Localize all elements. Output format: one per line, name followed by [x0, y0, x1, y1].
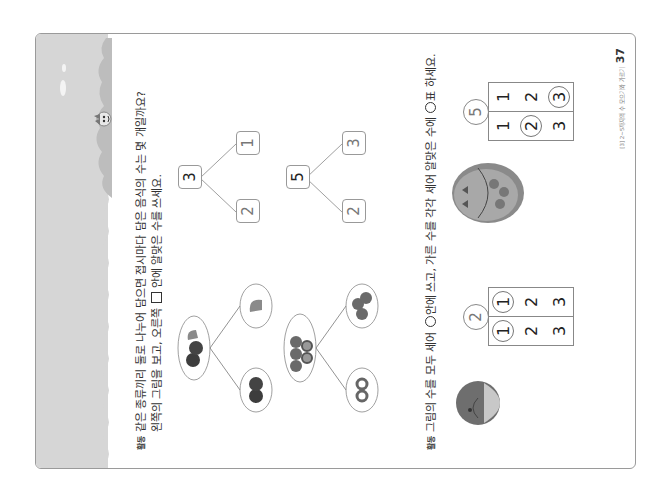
total-answer-circle[interactable]: 2 [463, 304, 489, 330]
choice-option[interactable]: 2 [520, 291, 542, 313]
bond-part-answer[interactable]: 3 [342, 131, 366, 155]
choice-option[interactable]: 1 [492, 115, 514, 137]
bond-whole: 5 [286, 165, 310, 189]
split-choice-table-2: 1 2 3 1 2 3 [488, 82, 574, 141]
worksheet-page: 활동같은 종류끼리 둘로 나누어 담으면 접시마다 담은 음식의 수는 몇 개일… [35, 33, 636, 469]
choice-column: 1 2 3 [489, 83, 573, 112]
activity-marker: 활동 [134, 436, 149, 450]
choice-option[interactable]: 1 [492, 86, 514, 108]
choice-option[interactable]: 3 [548, 86, 570, 108]
question2-text: 활동그림의 수를 모두 세어 안에 쓰고, 가른 수를 각각 세어 알맞은 수에… [424, 54, 439, 450]
total-answer-circle[interactable]: 5 [463, 99, 489, 125]
question1-line1: 활동같은 종류끼리 둘로 나누어 담으면 접시마다 담은 음식의 수는 몇 개일… [134, 91, 149, 450]
jellyfish-picture [454, 378, 514, 428]
bond-part-answer[interactable]: 1 [236, 131, 260, 155]
question1-line2: 왼쪽의 그림을 보고, 오른쪽 안에 알맞은 수를 쓰세요. [150, 174, 165, 432]
circle-symbol [425, 316, 436, 327]
choice-option[interactable]: 3 [548, 115, 570, 137]
bond-whole: 3 [178, 165, 202, 189]
choice-option[interactable]: 2 [520, 320, 542, 342]
choice-option[interactable]: 3 [548, 320, 570, 342]
bond-part-answer[interactable]: 2 [342, 199, 366, 223]
choice-option[interactable]: 2 [520, 115, 542, 137]
apple-persimmon-split-diagram [176, 278, 276, 418]
choice-column: 1 2 3 [489, 288, 573, 317]
answer-box-symbol [151, 293, 162, 304]
activity-marker: 활동 [424, 436, 439, 450]
circle-symbol [425, 102, 436, 113]
berry-donut-split-diagram [282, 278, 382, 418]
choice-option[interactable]: 2 [520, 86, 542, 108]
page-footer: [3] 2~5까지의 수 모으기와 가르기37 [614, 48, 627, 149]
plate-picture [448, 158, 528, 228]
choice-option[interactable]: 3 [548, 291, 570, 313]
page-number: 37 [614, 48, 627, 63]
chapter-label: [3] 2~5까지의 수 모으기와 가르기 [619, 67, 625, 148]
choice-column: 1 2 3 [489, 317, 573, 345]
choice-option[interactable]: 1 [492, 291, 514, 313]
bond-part-answer[interactable]: 2 [236, 199, 260, 223]
choice-option[interactable]: 1 [492, 320, 514, 342]
choice-column: 1 2 3 [489, 112, 573, 140]
split-choice-table-1: 1 2 3 1 2 3 [488, 287, 574, 346]
